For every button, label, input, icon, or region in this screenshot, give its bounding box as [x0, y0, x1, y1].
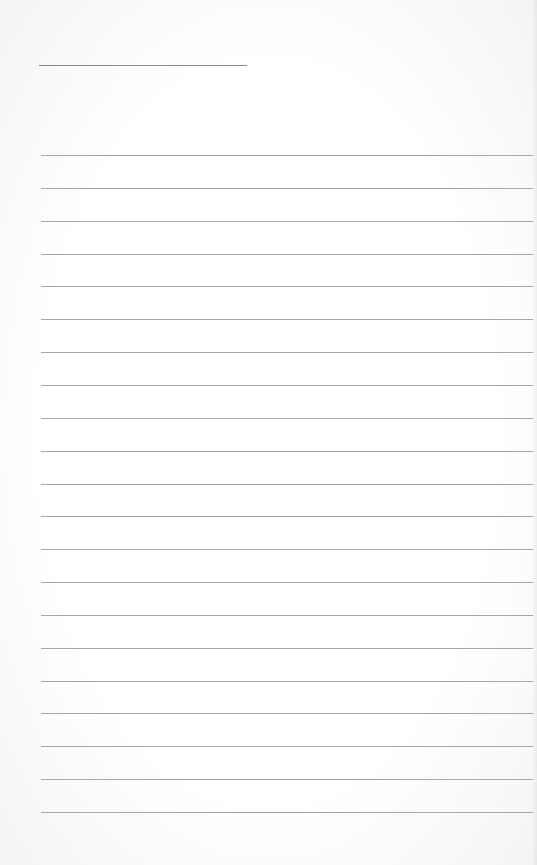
ruled-line — [41, 352, 533, 353]
ruled-line — [41, 418, 533, 419]
ruled-line — [41, 188, 533, 189]
ruled-line — [41, 385, 533, 386]
ruled-line — [41, 451, 533, 452]
lined-paper-page — [0, 0, 537, 865]
ruled-line — [41, 648, 533, 649]
ruled-line — [41, 779, 533, 780]
ruled-line — [41, 155, 533, 156]
ruled-line — [41, 681, 533, 682]
page-edge-shadow — [531, 0, 537, 865]
ruled-line — [41, 286, 533, 287]
ruled-line — [41, 713, 533, 714]
ruled-line — [41, 319, 533, 320]
title-underline — [39, 65, 247, 66]
ruled-line — [41, 582, 533, 583]
ruled-line — [41, 221, 533, 222]
ruled-line — [41, 549, 533, 550]
ruled-line — [41, 615, 533, 616]
ruled-line — [41, 254, 533, 255]
ruled-line — [41, 516, 533, 517]
ruled-line — [41, 746, 533, 747]
ruled-line — [41, 484, 533, 485]
ruled-line — [41, 812, 533, 813]
